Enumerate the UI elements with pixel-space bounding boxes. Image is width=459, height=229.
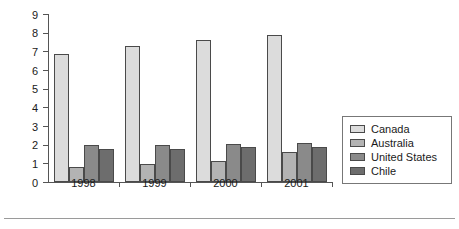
y-axis-tick-label: 8 <box>32 28 38 39</box>
legend-label: Canada <box>371 124 410 135</box>
legend-label: Australia <box>371 138 414 149</box>
bar <box>267 35 282 182</box>
legend-item: United States <box>350 150 445 164</box>
x-axis-label: 2001 <box>261 178 332 189</box>
y-axis-tick-label: 0 <box>32 177 38 188</box>
bar-chart-figure: 0123456789 1998199920002001 CanadaAustra… <box>0 0 459 229</box>
legend-item: Chile <box>350 164 445 178</box>
y-axis-tick-label: 1 <box>32 158 38 169</box>
x-axis-label: 1999 <box>119 178 190 189</box>
chart-legend: CanadaAustraliaUnited StatesChile <box>342 116 452 184</box>
legend-item: Canada <box>350 122 445 136</box>
legend-swatch <box>350 153 365 161</box>
y-axis-tick-label: 2 <box>32 140 38 151</box>
plot-area: 0123456789 <box>48 14 332 182</box>
legend-swatch <box>350 139 365 147</box>
y-axis-tick-label: 5 <box>32 84 38 95</box>
legend-label: Chile <box>371 166 396 177</box>
bar <box>312 147 327 182</box>
legend-label: United States <box>371 152 437 163</box>
legend-swatch <box>350 167 365 175</box>
bar-group <box>190 14 261 182</box>
footer-divider <box>4 218 455 219</box>
bar <box>54 54 69 182</box>
y-axis-tick-label: 9 <box>32 9 38 20</box>
legend-rows: CanadaAustraliaUnited StatesChile <box>350 122 445 178</box>
bar-group <box>119 14 190 182</box>
legend-swatch <box>350 125 365 133</box>
bar <box>196 40 211 182</box>
x-axis-label: 2000 <box>190 178 261 189</box>
y-axis-tick-label: 7 <box>32 46 38 57</box>
bar-group <box>48 14 119 182</box>
y-axis-tick-label: 4 <box>32 102 38 113</box>
x-axis-tick <box>332 182 333 187</box>
bar <box>241 147 256 182</box>
legend-item: Australia <box>350 136 445 150</box>
y-axis-tick-label: 6 <box>32 65 38 76</box>
bar-group <box>261 14 332 182</box>
bar <box>125 46 140 182</box>
y-axis-tick-label: 3 <box>32 121 38 132</box>
x-axis-label: 1998 <box>48 178 119 189</box>
